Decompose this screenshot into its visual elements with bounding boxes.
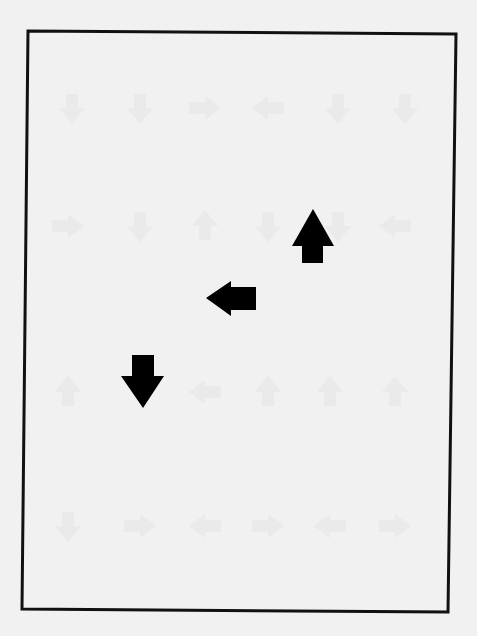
ghost-down-arrow-icon xyxy=(59,94,85,124)
down-arrow-icon xyxy=(121,355,164,408)
ghost-up-arrow-icon xyxy=(317,376,343,406)
ghost-left-arrow-icon xyxy=(189,514,221,538)
ghost-down-arrow-icon xyxy=(255,212,281,242)
ghost-left-arrow-icon xyxy=(252,96,284,120)
ghost-right-arrow-icon xyxy=(52,214,84,238)
ghost-down-arrow-icon xyxy=(392,94,418,124)
arrow-stimulus-canvas xyxy=(0,0,477,636)
stimulus-page xyxy=(0,0,477,636)
ghost-down-arrow-icon xyxy=(127,94,153,124)
ghost-right-arrow-icon xyxy=(124,514,156,538)
ghost-right-arrow-icon xyxy=(189,96,221,120)
ghost-down-arrow-icon xyxy=(325,94,351,124)
ghost-up-arrow-icon xyxy=(55,376,81,406)
ghost-up-arrow-icon xyxy=(382,376,408,406)
ghost-left-arrow-icon xyxy=(189,380,221,404)
bleed-through-marks xyxy=(52,94,418,542)
up-arrow-icon xyxy=(292,209,334,263)
ghost-up-arrow-icon xyxy=(255,376,281,406)
left-arrow-icon xyxy=(206,281,256,316)
ghost-down-arrow-icon xyxy=(55,512,81,542)
ghost-down-arrow-icon xyxy=(127,212,153,242)
ghost-left-arrow-icon xyxy=(379,214,411,238)
ghost-right-arrow-icon xyxy=(252,514,284,538)
ghost-up-arrow-icon xyxy=(192,210,218,240)
ghost-right-arrow-icon xyxy=(379,514,411,538)
ghost-left-arrow-icon xyxy=(314,514,346,538)
